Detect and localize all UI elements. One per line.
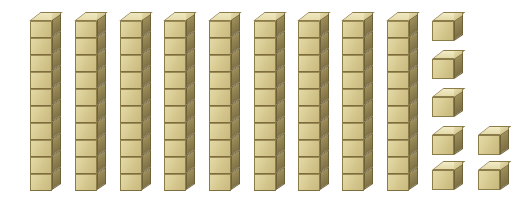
cube-face-face [432, 59, 454, 79]
unit-cube [432, 12, 463, 43]
unit-cube [478, 126, 509, 157]
cube-side-face [454, 164, 463, 190]
unit-cube [432, 50, 463, 81]
cube-face-face [478, 170, 500, 190]
unit-cube [432, 126, 463, 157]
cube-face-face [478, 135, 500, 155]
cube-side-face [454, 91, 463, 117]
cube-face-face [432, 135, 454, 155]
cube-side-face [500, 164, 509, 190]
cube-face-face [432, 170, 454, 190]
cube-face-face [432, 97, 454, 117]
unit-cube [432, 88, 463, 119]
unit-cube [432, 161, 463, 192]
unit-cubes-group [0, 0, 531, 204]
cube-side-face [454, 129, 463, 155]
cube-side-face [500, 129, 509, 155]
base-ten-blocks-illustration: Base ten blocks [0, 0, 531, 204]
cube-side-face [454, 53, 463, 79]
unit-cube [478, 161, 509, 192]
cube-side-face [454, 15, 463, 41]
cube-face-face [432, 21, 454, 41]
